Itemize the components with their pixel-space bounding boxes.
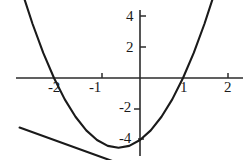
y-label-neg4: -4 xyxy=(119,131,131,146)
parabola-curve xyxy=(22,0,228,148)
x-label-pos1: 1 xyxy=(180,80,187,95)
x-label-pos2: 2 xyxy=(224,80,231,95)
y-label-neg2: -2 xyxy=(119,100,131,115)
y-label-4: 4 xyxy=(126,9,133,24)
graph-figure: 4 2 -2 -4 -2 -1 1 2 xyxy=(0,0,247,160)
x-label-neg2: -2 xyxy=(48,80,60,95)
y-label-2: 2 xyxy=(126,40,133,55)
x-label-neg1: -1 xyxy=(89,80,101,95)
